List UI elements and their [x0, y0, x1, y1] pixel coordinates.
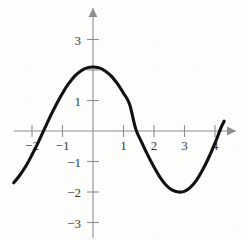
sine-curve [14, 67, 224, 192]
chart-figure: −2 −1 1 2 3 4 3 1 −1 −2 −3 [0, 0, 247, 241]
x-axis-arrow-icon [227, 127, 236, 136]
y-tick-label: −2 [67, 185, 81, 200]
y-tick-label: 3 [75, 33, 82, 48]
x-tick-label: −1 [56, 138, 70, 153]
x-tick-label: 3 [181, 138, 188, 153]
coordinate-plot: −2 −1 1 2 3 4 3 1 −1 −2 −3 [0, 0, 247, 241]
x-tick-label: 1 [120, 138, 127, 153]
y-tick-label: −1 [67, 155, 81, 170]
y-tick-label: −3 [67, 216, 81, 231]
y-axis-arrow-icon [89, 8, 98, 17]
x-tick-label: 2 [151, 138, 158, 153]
y-tick-label: 1 [75, 94, 82, 109]
